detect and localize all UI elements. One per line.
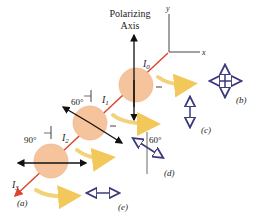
y-axis-label: y (165, 4, 170, 13)
panel-c-label: (c) (201, 125, 211, 135)
axis-label-line2: Axis (121, 20, 140, 31)
panel-e-label: (e) (118, 202, 128, 212)
label-I0: I0 (142, 58, 150, 71)
polarization-state-unpolarized (211, 66, 240, 96)
panel-a-label: (a) (17, 198, 28, 208)
label-I2: I2 (61, 132, 69, 145)
angle-90-label: 90° (24, 135, 37, 145)
panel-b-label: (b) (236, 95, 247, 105)
label-I3: I3 (11, 179, 19, 192)
panel-d-label: (d) (164, 168, 175, 178)
polarizer-vertical (119, 35, 162, 120)
label-I1: I1 (101, 94, 109, 107)
x-axis-label: x (201, 48, 206, 57)
coordinate-axes: y x (165, 4, 206, 57)
polarizer-horizontal (18, 126, 86, 178)
axis-label-line1: Polarizing (109, 8, 150, 19)
angle-60-d-label: 60° (149, 135, 162, 145)
angle-60-label: 60° (71, 97, 84, 107)
polarization-diagram: y x (0, 0, 257, 220)
